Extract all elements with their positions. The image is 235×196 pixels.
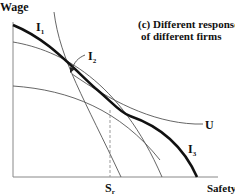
i3-label: I3 — [188, 142, 197, 158]
offer-curve-i1-i3 — [13, 25, 197, 177]
i2-label: I2 — [88, 49, 97, 65]
i1-label: I1 — [36, 20, 45, 36]
wage-safety-diagram: Wage Safety I1 I2 I3 U Sr (c) Different … — [0, 0, 235, 196]
sr-label: Sr — [105, 181, 115, 196]
u-label: U — [205, 118, 214, 132]
x-axis-label: Safety — [207, 182, 235, 194]
y-axis-label: Wage — [0, 0, 29, 14]
figure-title-line2: of different firms — [141, 30, 222, 42]
isocost-curve-lower — [13, 86, 160, 160]
